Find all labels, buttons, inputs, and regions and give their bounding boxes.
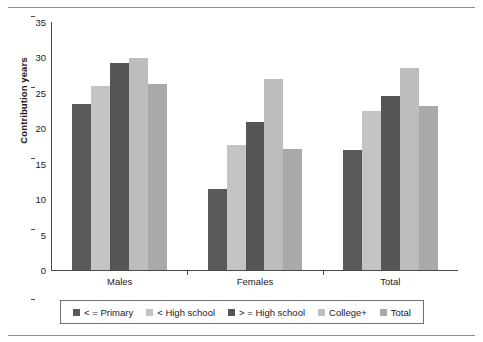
bar [110, 63, 129, 270]
bar [227, 145, 246, 270]
bar-group-bars [208, 22, 303, 270]
legend-item[interactable]: > = High school [228, 307, 305, 318]
page-rule-bottom [8, 335, 475, 336]
legend-label: < = Primary [84, 307, 133, 318]
legend-label: > = High school [239, 307, 305, 318]
legend-swatch-icon [73, 309, 80, 316]
y-axis-tick-mark [31, 158, 35, 159]
bar [264, 79, 283, 270]
legend-swatch-icon [318, 309, 325, 316]
bar-groups [52, 22, 458, 270]
legend-label: Total [391, 307, 411, 318]
bar [400, 68, 419, 270]
legend-label: < High school [157, 307, 215, 318]
legend-item[interactable]: < High school [146, 307, 215, 318]
y-axis-tick-mark [31, 16, 35, 17]
legend-item[interactable]: < = Primary [73, 307, 133, 318]
x-axis-tick-mark [187, 270, 188, 275]
bar [72, 104, 91, 271]
x-axis-line [51, 270, 458, 271]
x-axis-category-label: Males [52, 276, 187, 287]
bar [419, 106, 438, 270]
x-axis-category-label: Females [187, 276, 322, 287]
bar-group [208, 22, 303, 270]
y-axis-tick-label: 20 [35, 123, 52, 134]
bar-chart: Contribution years 05101520253035 MalesF… [0, 0, 483, 300]
bar [343, 150, 362, 270]
bar-group [72, 22, 167, 270]
y-axis-label: Contribution years [18, 26, 29, 176]
legend-item[interactable]: College+ [318, 307, 367, 318]
x-axis-tick-mark [323, 270, 324, 275]
bar [381, 96, 400, 270]
legend-swatch-icon [228, 309, 235, 316]
bar-group-bars [72, 22, 167, 270]
bar-group-bars [343, 22, 438, 270]
y-axis-tick-mark [31, 87, 35, 88]
y-axis-tick-label: 5 [41, 229, 52, 240]
bar [129, 58, 148, 270]
figure-page: Contribution years 05101520253035 MalesF… [0, 0, 483, 342]
y-axis-tick-mark [31, 299, 35, 300]
legend-swatch-icon [146, 309, 153, 316]
y-axis-tick-label: 35 [35, 17, 52, 28]
bar [208, 189, 227, 270]
y-axis-tick-label: 0 [41, 265, 52, 276]
bar [283, 149, 302, 270]
bar [362, 111, 381, 270]
y-axis-tick-mark [31, 229, 35, 230]
y-axis-tick-label: 10 [35, 194, 52, 205]
chart-legend: < = Primary< High school> = High schoolC… [60, 300, 424, 324]
bar [148, 84, 167, 270]
legend-swatch-icon [380, 309, 387, 316]
x-axis-category-label: Total [323, 276, 458, 287]
bar [91, 86, 110, 270]
bar [246, 122, 265, 270]
legend-label: College+ [329, 307, 367, 318]
legend-item[interactable]: Total [380, 307, 411, 318]
y-axis-tick-label: 25 [35, 87, 52, 98]
y-axis-tick-label: 30 [35, 52, 52, 63]
bar-group [343, 22, 438, 270]
y-axis-tick-label: 15 [35, 158, 52, 169]
